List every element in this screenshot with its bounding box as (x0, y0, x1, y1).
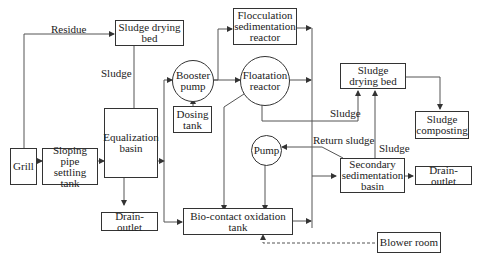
sludge-drying-bed-top-box: Sludge drying bed (115, 20, 184, 46)
floatation-reactor-circle: Floatation reactor (240, 56, 290, 106)
equalization-basin-box: Equalization basin (104, 108, 158, 178)
process-flow-diagram: Grill Sloping pipe settling tank Equaliz… (0, 0, 483, 262)
flocculation-reactor-box: Flocculation sedimentation reactor (233, 8, 297, 45)
grill-box: Grill (10, 148, 37, 185)
return-sludge-label: Return sludge (313, 135, 374, 146)
sloping-pipe-settling-tank-box: Sloping pipe settling tank (42, 148, 98, 185)
sludge-floatation-label: Sludge (330, 108, 361, 119)
secondary-sedimentation-basin-box: Secondary sedimentation basin (340, 158, 405, 193)
residue-label: Residue (51, 24, 86, 35)
sludge-secondary-label: Sludge (379, 143, 410, 154)
drain-outlet-right-box: Drain-outlet (415, 166, 472, 185)
booster-pump-circle: Booster pump (172, 60, 214, 102)
blower-room-box: Blower room (377, 232, 441, 253)
drain-outlet-left-box: Drain-outlet (101, 212, 158, 231)
sludge-drying-bed-right-box: Sludge drying bed (340, 63, 406, 89)
sludge-composting-box: Sludge composting (415, 111, 469, 139)
pump-circle: Pump (251, 135, 282, 166)
bio-contact-oxidation-tank-box: Bio-contact oxidation tank (183, 208, 293, 235)
dosing-tank-box: Dosing tank (173, 106, 212, 133)
sludge-equalization-label: Sludge (101, 68, 132, 79)
